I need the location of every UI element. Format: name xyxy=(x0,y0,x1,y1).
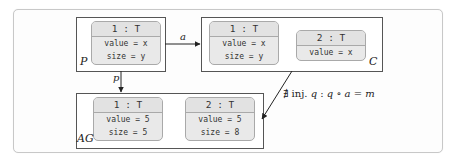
edge-label-p: p xyxy=(113,72,119,83)
edges-layer xyxy=(0,0,456,165)
constraint-text: ∄ inj. q : q ∘ a = m xyxy=(283,88,375,99)
edge-label-a: a xyxy=(180,31,186,42)
